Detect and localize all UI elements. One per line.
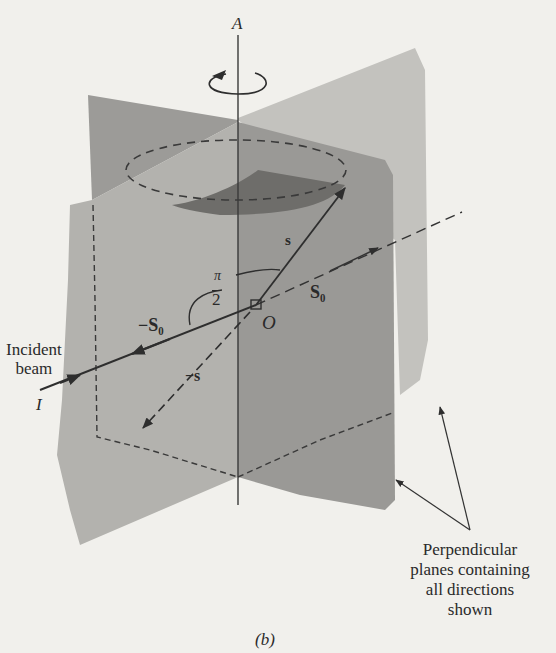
diagram-figure: A O s S₀ −S₀ −s π 2 Incident beam I Perp… <box>0 0 556 653</box>
planes-callout-line-2: planes containing <box>385 560 555 580</box>
incident-beam-label-line-1: Incident <box>6 340 62 359</box>
angle-denominator: 2 <box>212 290 221 309</box>
callout-arrow-2 <box>396 480 470 530</box>
vector-neg-s0-label: −S₀ <box>138 315 164 336</box>
planes-callout-line-4: shown <box>385 600 555 620</box>
incident-beam-label: Incident beam <box>6 340 62 378</box>
origin-label: O <box>262 312 276 334</box>
planes-callout-line-1: Perpendicular <box>385 540 555 560</box>
incident-beam-label-line-2: beam <box>6 359 62 378</box>
incident-point-label: I <box>36 395 42 415</box>
planes-callout-label: Perpendicular planes containing all dire… <box>385 540 555 620</box>
planes-callout-line-3: all directions <box>385 580 555 600</box>
angle-numerator: π <box>214 268 221 284</box>
axis-a-label: A <box>232 14 242 34</box>
vector-neg-s-label: −s <box>185 367 200 385</box>
vector-s0-label: S₀ <box>310 282 325 303</box>
vector-s-label: s <box>285 232 291 249</box>
callout-arrow-1 <box>440 407 470 530</box>
panel-label: (b) <box>255 630 275 650</box>
